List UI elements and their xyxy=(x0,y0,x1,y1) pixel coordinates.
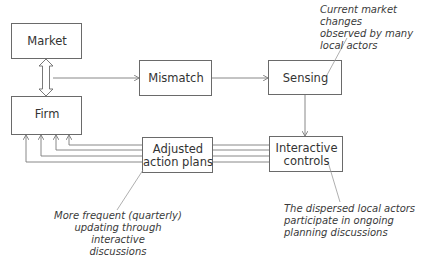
market-firm-double-arrow xyxy=(39,59,53,96)
sensing-label: Sensing xyxy=(269,61,342,95)
interactive-annotation: The dispersed local actors participate i… xyxy=(284,203,415,239)
mismatch-label: Mismatch xyxy=(140,61,212,96)
adjusted-action-plans-label: Adjusted action plans xyxy=(143,138,213,173)
adjusted-annotation: More frequent (quarterly) updating throu… xyxy=(48,210,188,258)
sensing-annotation: Current market changes observed by many … xyxy=(320,4,428,52)
market-label: Market xyxy=(12,24,82,59)
adjusted-note-leader xyxy=(117,170,143,210)
interactive-controls-label: Interactive controls xyxy=(270,137,343,172)
firm-label: Firm xyxy=(12,97,82,132)
